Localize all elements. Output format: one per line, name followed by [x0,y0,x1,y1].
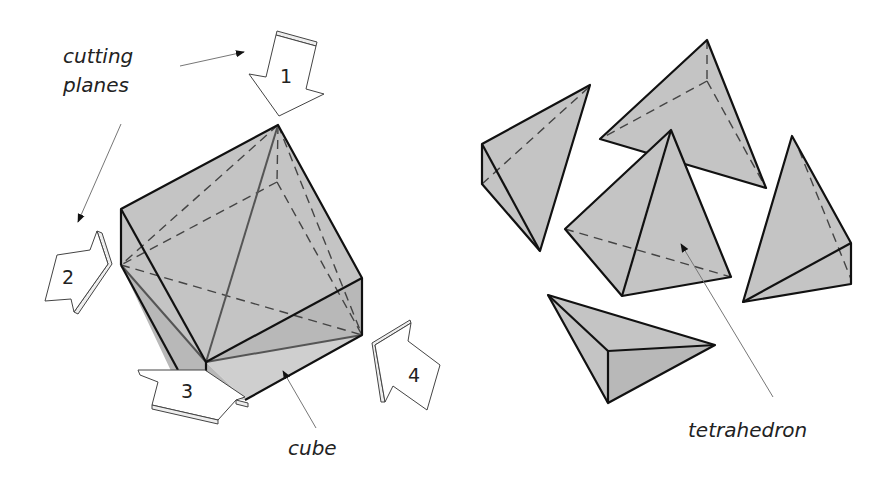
arrow-3-number: 3 [181,380,193,402]
cube-label: cube [288,436,337,460]
arrow-2-number: 2 [62,266,74,288]
cube [121,125,362,400]
tetrahedron-label: tetrahedron [688,418,807,442]
tetrahedron-piece-e [548,295,715,403]
cutting-planes-label-line1: cutting [63,44,133,68]
leader-arrow-to-plane-1 [180,52,244,66]
cutting-plane-arrow-4: 4 [372,320,440,410]
arrow-1-number: 1 [280,65,292,87]
leader-arrow-to-plane-2 [78,124,121,222]
cutting-plane-arrow-1: 1 [249,31,324,116]
tetrahedron-piece-d [743,136,851,302]
cube-dissection-diagram: 1 2 3 4 cutting planes cube [0,0,890,503]
arrow-4-number: 4 [408,364,420,386]
cutting-plane-arrow-2: 2 [45,231,112,314]
cutting-planes-label-line2: planes [62,73,129,97]
leader-arrow-to-cube [283,371,316,428]
